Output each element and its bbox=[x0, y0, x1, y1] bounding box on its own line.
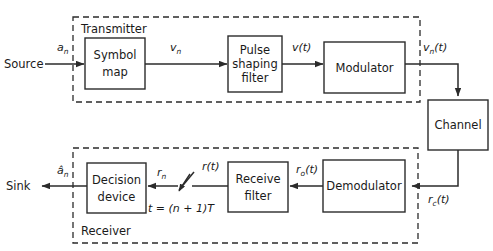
block-pulse-shaping-filter-line2: shaping bbox=[232, 57, 277, 71]
wire-channel-to-demodulator bbox=[412, 150, 458, 186]
block-receive-filter-line1: Receive bbox=[235, 172, 280, 186]
block-diagram-canvas: Symbol map Pulse shaping filter Modulato… bbox=[0, 0, 493, 251]
block-symbol-map[interactable]: Symbol map bbox=[85, 38, 145, 89]
wire-modulator-to-channel bbox=[405, 64, 458, 96]
sampler-switch-arrow bbox=[179, 174, 190, 191]
block-symbol-map-line2: map bbox=[102, 65, 128, 79]
signal-r-c-of-t-label: rc(t) bbox=[428, 193, 450, 208]
block-demodulator-label: Demodulator bbox=[326, 179, 402, 193]
block-receive-filter[interactable]: Receive filter bbox=[228, 162, 288, 212]
block-pulse-shaping-filter[interactable]: Pulse shaping filter bbox=[228, 36, 282, 92]
block-symbol-map-line1: Symbol bbox=[94, 48, 137, 62]
signal-r-of-t-label: r(t) bbox=[202, 160, 219, 173]
block-decision-device[interactable]: Decision device bbox=[87, 163, 146, 213]
block-decision-device-line2: device bbox=[98, 190, 136, 204]
signal-a-hat-n-label: ân bbox=[57, 164, 69, 179]
block-pulse-shaping-filter-line1: Pulse bbox=[240, 43, 270, 57]
signal-v-of-t-label: v(t) bbox=[292, 41, 311, 54]
sampling-instant-annotation: t = (n + 1)T bbox=[148, 202, 215, 215]
signal-r-n-label: rn bbox=[157, 166, 167, 181]
block-channel[interactable]: Channel bbox=[428, 100, 488, 150]
transmitter-group-label: Transmitter bbox=[80, 22, 147, 36]
signal-v-n-label: vn bbox=[170, 41, 182, 56]
endpoint-sink-label: Sink bbox=[6, 179, 31, 193]
block-decision-device-line1: Decision bbox=[92, 173, 141, 187]
endpoint-source-label: Source bbox=[4, 57, 44, 71]
block-pulse-shaping-filter-line3: filter bbox=[242, 71, 269, 85]
signal-v-n-of-t-label: vn(t) bbox=[423, 41, 447, 56]
block-demodulator[interactable]: Demodulator bbox=[323, 160, 405, 212]
signal-r-o-of-t-label: ro(t) bbox=[296, 163, 318, 178]
signal-a-n-label: an bbox=[57, 41, 69, 56]
block-channel-label: Channel bbox=[434, 118, 481, 132]
receiver-group-label: Receiver bbox=[81, 224, 131, 238]
block-modulator-label: Modulator bbox=[335, 61, 393, 75]
block-modulator[interactable]: Modulator bbox=[324, 42, 405, 93]
block-receive-filter-line2: filter bbox=[245, 189, 272, 203]
